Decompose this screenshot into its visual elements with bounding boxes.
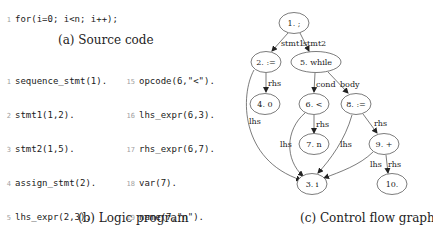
program-line: 17rhs_expr(6,7). (126, 144, 237, 156)
edge-5-6-cond (314, 73, 315, 92)
node-7-label: 7. n (306, 140, 321, 149)
program-line: 2stmt1(1,2). (2, 110, 107, 122)
node-6-label: 6. < (306, 100, 323, 109)
program-fact: var(7). (139, 178, 177, 188)
caption-source-code: (a) Source code (58, 33, 154, 47)
program-line: 16lhs_expr(6,3). (126, 110, 237, 122)
edge-label-rhs: rhs (316, 120, 329, 129)
edge-label-stmt1: stmt1 (281, 39, 304, 48)
edge-label-cond: cond (316, 80, 336, 89)
line-number: 18 (126, 179, 135, 190)
node-2-label: 2. := (256, 58, 276, 67)
line-number: 5 (2, 213, 11, 224)
line-number: 17 (126, 145, 135, 156)
node-5-label: 5. while (300, 58, 332, 67)
program-fact: rhs_expr(6,7). (139, 144, 215, 154)
program-fact: opcode(6,"<"). (139, 76, 215, 86)
caption-logic-program: (b) Logic program (78, 211, 189, 225)
node-8-label: 8. := (346, 100, 366, 109)
program-fact: sequence_stmt(1). (15, 76, 107, 86)
node-9-label: 9. + (376, 140, 393, 149)
program-fact: lhs_expr(6,3). (139, 110, 215, 120)
node-1-label: 1. ; (288, 19, 301, 28)
line-number: 16 (126, 111, 135, 122)
line-number: 15 (126, 77, 135, 88)
node-4-label: 4. 0 (257, 100, 272, 109)
edge-label-lhs: lhs (340, 140, 352, 149)
source-code-line: 1for(i=0; i<n; i++); (2, 14, 118, 24)
line-number: 1 (2, 16, 11, 24)
program-fact: assign_stmt(2). (15, 178, 96, 188)
edge-label-stmt2: stmt2 (303, 39, 326, 48)
program-fact: stmt1(1,2). (15, 110, 75, 120)
program-line: 3stmt2(1,5). (2, 144, 107, 156)
edge-label-lhs: lhs (370, 160, 382, 169)
edge-label-lhs: lhs (280, 140, 292, 149)
line-number: 3 (2, 145, 11, 156)
node-10-label: 10. (386, 180, 399, 189)
line-number: 2 (2, 111, 11, 122)
logic-program-column-2: 15opcode(6,"<"). 16lhs_expr(6,3). 17rhs_… (126, 54, 237, 234)
edge-label-rhs: rhs (374, 119, 387, 128)
edge-label-body: body (340, 80, 360, 89)
logic-program-column-1: 1sequence_stmt(1). 2stmt1(1,2). 3stmt2(1… (2, 54, 107, 234)
edge-label-rhs: rhs (268, 79, 281, 88)
line-number: 1 (2, 77, 11, 88)
source-code-text: for(i=0; i<n; i++); (15, 14, 118, 24)
program-line: 4assign_stmt(2). (2, 178, 107, 190)
edge-label-rhs: rhs (388, 160, 401, 169)
program-line: 1sequence_stmt(1). (2, 76, 107, 88)
caption-control-flow-graph: (c) Control flow graph (300, 211, 433, 225)
program-fact: stmt2(1,5). (15, 144, 75, 154)
line-number: 4 (2, 179, 11, 190)
node-3-label: 3. i (306, 180, 319, 189)
edge-label-lhs: lhs (249, 117, 261, 126)
control-flow-graph: 1. ; 2. := 5. while 4. 0 6. < 8. := 7. n… (240, 0, 433, 205)
program-line: 15opcode(6,"<"). (126, 76, 237, 88)
edge-9-3-lhs (324, 152, 373, 178)
program-line: 18var(7). (126, 178, 237, 190)
